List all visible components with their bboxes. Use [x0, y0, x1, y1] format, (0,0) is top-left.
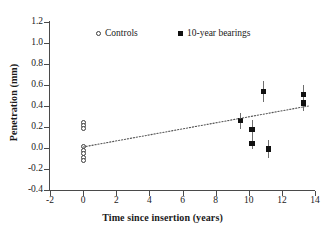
legend-item-bearings: 10-year bearings [178, 26, 251, 40]
x-axis-title: Time since insertion (years) [0, 212, 325, 223]
legend-item-controls: Controls [96, 26, 138, 40]
legend-label-bearings: 10-year bearings [187, 28, 251, 38]
y-axis-title: Penetration (mm) [8, 28, 19, 178]
penetration-scatter-chart: -0.4-0.20.00.20.40.60.81.01.2 -202468101… [0, 0, 325, 235]
open-circle-marker-icon [96, 31, 101, 36]
chart-legend: Controls 10-year bearings [96, 26, 296, 42]
filled-square-marker-icon [178, 31, 183, 36]
legend-label-controls: Controls [105, 28, 138, 38]
